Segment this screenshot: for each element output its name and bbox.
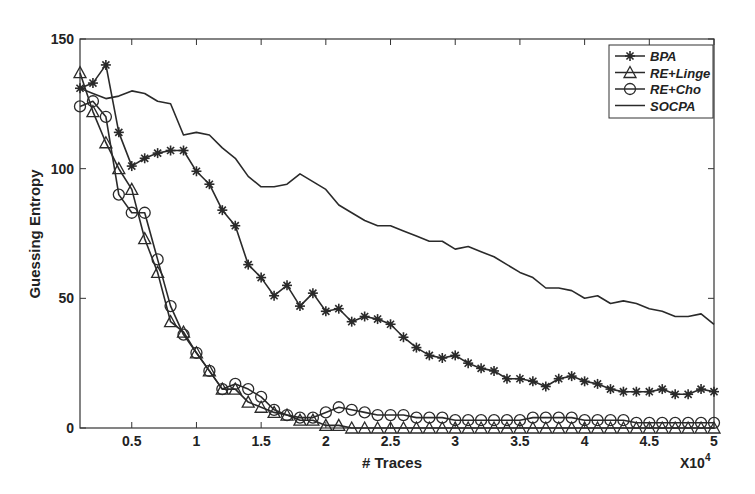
- legend-label: BPA: [650, 49, 676, 64]
- x-tick-label: 0.5: [122, 433, 142, 449]
- series-re-linge: [74, 67, 720, 433]
- x-tick-label: 4: [581, 433, 589, 449]
- legend-label: RE+Cho: [650, 82, 701, 97]
- x-tick-label: 4.5: [640, 433, 660, 449]
- legend-item: RE+Cho: [615, 82, 701, 97]
- y-axis-title: Guessing Entropy: [26, 169, 43, 299]
- x-tick-label: 2.5: [381, 433, 401, 449]
- y-tick-label: 100: [51, 161, 75, 177]
- line-chart: 0.511.522.533.544.55050100150 BPARE+Ling…: [0, 0, 755, 494]
- x-tick-label: 3.5: [510, 433, 530, 449]
- y-tick-label: 50: [58, 290, 74, 306]
- legend: BPARE+LingeRE+ChoSOCPA: [609, 45, 713, 118]
- y-tick-label: 0: [66, 420, 74, 436]
- y-tick-label: 150: [51, 31, 75, 47]
- x-tick-label: 5: [710, 433, 718, 449]
- x-axis-title: # Traces: [362, 454, 422, 471]
- legend-label: RE+Linge: [650, 66, 710, 81]
- x-axis-multiplier: X104: [680, 452, 711, 471]
- legend-label: SOCPA: [650, 99, 695, 114]
- x-tick-label: 1.5: [251, 433, 271, 449]
- x-tick-label: 2: [322, 433, 330, 449]
- x-tick-label: 3: [451, 433, 459, 449]
- x-tick-label: 1: [193, 433, 201, 449]
- series-socpa: [80, 88, 714, 324]
